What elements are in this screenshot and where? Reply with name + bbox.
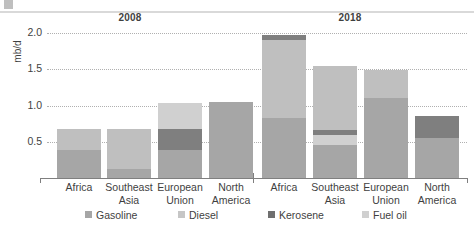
x-axis-end-tick <box>467 178 468 183</box>
bar-southeast-asia-2008[interactable] <box>107 129 151 178</box>
legend-item-gasoline[interactable]: Gasoline <box>85 209 137 221</box>
header-divider <box>0 11 474 13</box>
legend-item-kerosene[interactable]: Kerosene <box>268 209 324 221</box>
bar-north-america-2008[interactable] <box>209 102 253 178</box>
y-axis-tick-label: 1.5 <box>10 62 42 74</box>
legend-swatch-icon <box>85 211 92 218</box>
bar-segment-gasoline[interactable] <box>313 145 357 178</box>
bar-segment-gasoline[interactable] <box>415 138 459 178</box>
category-label-line: North <box>407 181 467 194</box>
bar-segment-diesel[interactable] <box>57 129 101 150</box>
group-title-2008: 2008 <box>95 12 165 23</box>
category-label: NorthAmerica <box>201 181 261 206</box>
bar-segment-fuel-oil[interactable] <box>158 103 202 128</box>
legend-item-fuel-oil[interactable]: Fuel oil <box>362 209 407 221</box>
y-axis-tick-label: 0.5 <box>10 135 42 147</box>
bar-north-america-2018[interactable] <box>415 116 459 178</box>
legend-label: Gasoline <box>96 209 137 221</box>
bar-segment-kerosene[interactable] <box>158 129 202 151</box>
bar-segment-gasoline[interactable] <box>209 102 253 178</box>
bar-european-union-2008[interactable] <box>158 103 202 178</box>
bar-segment-gasoline[interactable] <box>107 169 151 178</box>
header-marker <box>4 0 13 9</box>
group-title-2018: 2018 <box>315 12 385 23</box>
bar-southeast-asia-2018[interactable] <box>313 66 357 178</box>
chart-container: 2008 2018 mb/d 0.51.01.52.0 AfricaSouthe… <box>0 0 474 235</box>
bar-european-union-2018[interactable] <box>364 70 408 178</box>
bar-segment-diesel[interactable] <box>262 40 306 118</box>
x-axis-line <box>40 178 468 179</box>
legend-swatch-icon <box>268 211 275 218</box>
bar-segment-gasoline[interactable] <box>158 150 202 178</box>
bar-africa-2008[interactable] <box>57 129 101 178</box>
bar-segment-kerosene[interactable] <box>415 116 459 138</box>
category-label-line: America <box>407 194 467 207</box>
chart-legend: GasolineDieselKeroseneFuel oil <box>0 209 474 229</box>
y-axis-tick-label: 1.0 <box>10 99 42 111</box>
bar-segment-gasoline[interactable] <box>262 118 306 178</box>
bar-segment-diesel[interactable] <box>364 70 408 98</box>
gridline <box>47 33 467 34</box>
bar-segment-gasoline[interactable] <box>364 98 408 178</box>
category-label-line: America <box>201 194 261 207</box>
legend-label: Diesel <box>189 209 218 221</box>
category-label-line: North <box>201 181 261 194</box>
x-axis-start-tick <box>40 178 41 183</box>
bar-segment-diesel[interactable] <box>107 129 151 169</box>
category-label: NorthAmerica <box>407 181 467 206</box>
bar-segment-fuel-oil[interactable] <box>313 135 357 145</box>
legend-item-diesel[interactable]: Diesel <box>178 209 218 221</box>
legend-label: Kerosene <box>279 209 324 221</box>
bar-segment-diesel[interactable] <box>313 66 357 130</box>
bar-segment-gasoline[interactable] <box>57 150 101 178</box>
bar-africa-2018[interactable] <box>262 35 306 178</box>
legend-swatch-icon <box>362 211 369 218</box>
y-axis-tick-label: 2.0 <box>10 26 42 38</box>
legend-label: Fuel oil <box>373 209 407 221</box>
legend-swatch-icon <box>178 211 185 218</box>
